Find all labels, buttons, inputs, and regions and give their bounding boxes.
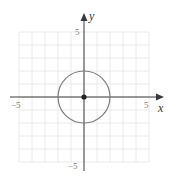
x-axis-label: x	[157, 101, 164, 115]
x-min-label: −5	[11, 100, 21, 110]
y-axis-label: y	[88, 9, 95, 23]
x-axis-arrow-icon	[156, 94, 164, 101]
center-point	[81, 94, 86, 99]
y-min-label: −5	[68, 161, 78, 171]
y-axis-arrow-icon	[81, 13, 88, 21]
coordinate-plane: y x 5 −5 −5 5	[0, 0, 170, 176]
y-max-label: 5	[75, 27, 80, 37]
x-max-label: 5	[144, 100, 149, 110]
